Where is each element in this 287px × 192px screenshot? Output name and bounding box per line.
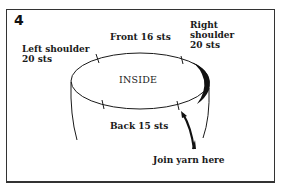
- tick-front-right: [181, 56, 183, 64]
- left-shoulder-label: Left shoulder 20 sts: [22, 44, 90, 64]
- join-arrow-shaft: [183, 114, 194, 149]
- neckline-diagram: [0, 0, 287, 192]
- join-yarn-label: Join yarn here: [153, 155, 225, 165]
- inside-label: INSIDE: [119, 75, 157, 85]
- join-arrow-head: [181, 111, 187, 118]
- front-label: Front 16 sts: [110, 32, 171, 42]
- back-label: Back 15 sts: [110, 121, 168, 131]
- tick-back-right: [177, 101, 179, 110]
- left-body-line: [71, 82, 77, 140]
- right-shoulder-label: Right shoulder 20 sts: [190, 20, 234, 50]
